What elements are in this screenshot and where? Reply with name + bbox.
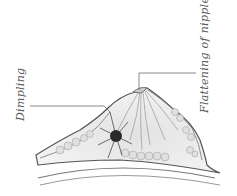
chest-wall-line: [38, 168, 215, 178]
chest-wall-line-lower: [40, 176, 220, 186]
flattening-leader-line: [139, 73, 196, 90]
illustration: Dimpling Flattening of nipple: [0, 0, 237, 196]
flattening-of-nipple-label: Flattening of nipple: [198, 0, 211, 113]
breast-outline: [36, 88, 220, 173]
dimpling-label: Dimpling: [14, 68, 27, 121]
dimpling-leader-line: [30, 106, 110, 112]
